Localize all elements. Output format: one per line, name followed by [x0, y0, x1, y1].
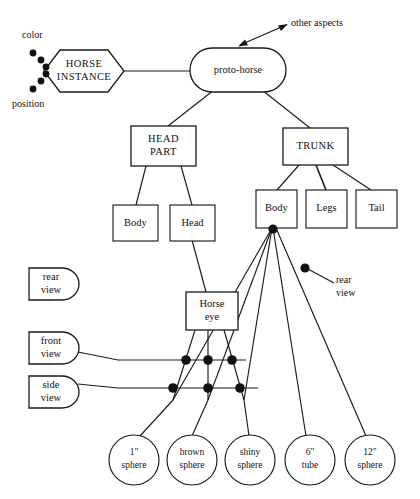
rear-view-label-line2: view [41, 284, 62, 295]
label-rear-view-right-line2: view [336, 287, 356, 298]
front-view-label-line2: view [41, 348, 62, 359]
dot-grid-r1c1 [181, 355, 191, 365]
brown-sphere-label-line1: brown [180, 447, 205, 457]
edge-trunk-to-body [277, 165, 299, 190]
tube-6in-label-line2: tube [302, 460, 318, 470]
concept-network-svg: HORSE INSTANCE color position proto-hors… [0, 0, 420, 499]
edge-grid-left-to-sphere1 [140, 400, 173, 436]
edge-side-view-to-grid-row2 [78, 384, 258, 388]
horse-instance-label-line1: HORSE [66, 58, 102, 69]
other-aspects-arrowhead-up [278, 24, 288, 31]
sphere-12in-label-line1: 12″ [363, 447, 377, 457]
edge-grid-mid-to-brown-sphere [192, 400, 208, 436]
head-body-label: Body [124, 217, 148, 228]
trunk-label: TRUNK [296, 140, 334, 151]
edge-trunk-to-legs [316, 165, 326, 190]
sphere-1in-label-line1: 1″ [130, 447, 139, 457]
dot-grid-r2c2 [203, 383, 213, 393]
edge-head-part-to-body [136, 166, 146, 205]
dot-position-3 [43, 71, 50, 78]
horse-eye-label-line2: eye [205, 311, 220, 322]
trunk-legs-label: Legs [316, 202, 336, 213]
dot-grid-r1c2 [203, 355, 213, 365]
dot-color-2 [30, 50, 37, 57]
label-other-aspects: other aspects [291, 17, 343, 28]
label-color: color [22, 29, 43, 40]
dot-trunk-body-junction [268, 224, 277, 233]
side-view-label-line1: side [43, 379, 60, 390]
head-head-label: Head [181, 217, 204, 228]
proto-horse-label: proto-horse [214, 64, 263, 75]
edge-trunk-to-tail [333, 165, 371, 190]
edge-proto-horse-to-head-part [168, 90, 214, 126]
edge-grid-right-to-shiny-sphere [244, 400, 249, 436]
edge-proto-horse-to-trunk [262, 90, 310, 128]
shiny-sphere-label-line1: shiny [240, 447, 261, 457]
rear-view-label-line1: rear [43, 271, 60, 282]
label-rear-view-right-line1: rear [336, 274, 352, 285]
edge-head-to-horse-eye [192, 240, 206, 292]
trunk-tail-label: Tail [368, 202, 384, 213]
trunk-body-label: Body [265, 202, 289, 213]
head-part-label-line2: PART [150, 146, 177, 157]
sphere-1in-label-line2: sphere [122, 460, 147, 470]
dot-grid-r1c3 [227, 355, 237, 365]
edge-rear-view-right-connector [306, 268, 334, 283]
horse-instance-label-line2: INSTANCE [57, 71, 111, 82]
dot-grid-r2c1 [168, 383, 178, 393]
dot-rear-view-right [300, 263, 309, 272]
dot-grid-r2c3 [235, 383, 245, 393]
tube-6in-label-line1: 6″ [306, 447, 315, 457]
head-part-label-line1: HEAD [148, 133, 179, 144]
sphere-12in-label-line2: sphere [358, 460, 383, 470]
brown-sphere-label-line2: sphere [180, 460, 205, 470]
label-position: position [12, 98, 44, 109]
dot-color-3 [43, 64, 50, 71]
edge-front-view-to-grid-row1 [78, 352, 246, 360]
edge-trunk-body-to-grid-right [244, 228, 272, 400]
other-aspects-arrow-line [240, 25, 286, 45]
diagram-canvas: HORSE INSTANCE color position proto-hors… [0, 0, 420, 499]
shiny-sphere-label-line2: sphere [238, 460, 263, 470]
side-view-label-line2: view [41, 392, 62, 403]
edge-head-part-to-head [181, 166, 192, 205]
dot-position-1 [38, 78, 45, 85]
horse-eye-label-line1: Horse [199, 298, 224, 309]
dot-position-2 [30, 86, 37, 93]
dot-color-1 [38, 57, 45, 64]
other-aspects-arrowhead-down [238, 40, 248, 47]
front-view-label-line1: front [41, 335, 61, 346]
